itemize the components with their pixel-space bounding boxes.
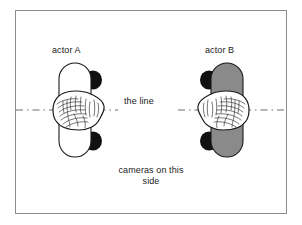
the-line-label: the line bbox=[124, 96, 154, 107]
actor-a-label: actor A bbox=[52, 45, 81, 56]
diagram-canvas: actor A actor B the line cameras on this… bbox=[0, 0, 302, 225]
cameras-side-label: cameras on this side bbox=[112, 165, 190, 187]
actor-b-label: actor B bbox=[205, 45, 234, 56]
